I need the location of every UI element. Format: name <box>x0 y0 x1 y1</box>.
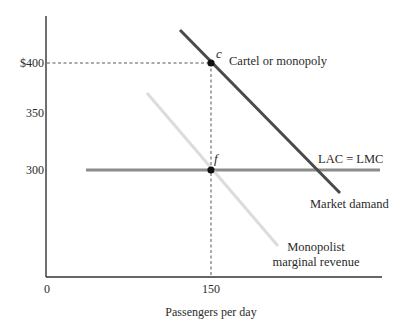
y-tick-400: $400 <box>20 56 44 70</box>
point-c-label: c <box>216 46 222 61</box>
x-axis-title: Passengers per day <box>165 305 256 319</box>
mr-label-line2: marginal revenue <box>273 255 360 269</box>
y-tick-350: 350 <box>26 106 44 120</box>
market-demand-label: Market damand <box>310 197 390 211</box>
lac-lmc-label: LAC = LMC <box>318 152 383 166</box>
point-c-marker <box>207 59 214 66</box>
cartel-monopoly-label: Cartel or monopoly <box>229 54 328 68</box>
y-tick-300: 300 <box>26 163 44 177</box>
point-f-label: f <box>214 151 220 166</box>
chart: $400 350 300 0 150 Passengers per day c … <box>0 0 405 323</box>
x-tick-0: 0 <box>44 282 50 296</box>
point-f-marker <box>207 166 214 173</box>
x-tick-150: 150 <box>202 282 220 296</box>
mr-label-line1: Monopolist <box>287 240 345 254</box>
